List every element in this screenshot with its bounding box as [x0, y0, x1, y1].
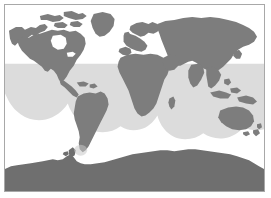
world-map: [5, 5, 264, 191]
smudge-south-atlantic: [74, 145, 87, 156]
southern-tip-detail: [74, 145, 87, 156]
figure-container: Distribution range Land Ocean: [0, 0, 271, 198]
map-frame: Distribution range Land Ocean: [4, 4, 265, 192]
